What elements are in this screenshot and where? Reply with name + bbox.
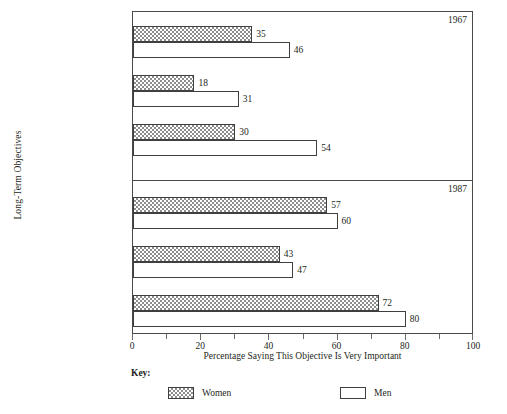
- bar-group: 4347: [133, 246, 472, 278]
- legend-title: Key:: [131, 368, 151, 378]
- panel-1967: 1967 354618313054: [133, 12, 472, 180]
- y-axis-title: Long-Term Objectives: [13, 85, 23, 265]
- legend-entry-men: Men: [340, 386, 391, 400]
- bar-men: [133, 262, 293, 278]
- bar-value-label: 35: [256, 26, 266, 42]
- legend-entry-women: Women: [168, 386, 231, 400]
- bar-group: 1831: [133, 75, 472, 107]
- bar-value-label: 72: [383, 295, 393, 311]
- x-axis-tick-label: 20: [195, 341, 205, 351]
- bar-group: 3546: [133, 26, 472, 58]
- x-axis-minor-tick: [303, 334, 304, 339]
- x-axis-tick: [472, 334, 473, 340]
- bar-chart-figure: Long-Term Objectives 1967 354618313054 1…: [0, 0, 507, 414]
- bar-value-label: 43: [284, 246, 294, 262]
- legend: Key: Women Men: [0, 368, 507, 410]
- bar-value-label: 18: [198, 75, 208, 91]
- x-axis-tick: [268, 334, 269, 340]
- x-axis-tick-label: 60: [332, 341, 342, 351]
- checkered-swatch-icon: [168, 387, 194, 399]
- bar-value-label: 31: [243, 91, 253, 107]
- bar-women: [133, 295, 379, 311]
- bar-men: [133, 91, 239, 107]
- plot-area: 1967 354618313054 1987 576043477280 Obta…: [132, 11, 473, 334]
- bar-men: [133, 213, 338, 229]
- bar-value-label: 30: [239, 124, 249, 140]
- x-axis: 020406080100: [132, 334, 473, 335]
- bar-women: [133, 75, 194, 91]
- x-axis-tick: [405, 334, 406, 340]
- bar-women: [133, 197, 327, 213]
- x-axis-tick-label: 100: [466, 341, 480, 351]
- x-axis-minor-tick: [439, 334, 440, 339]
- panel-year-label-bottom: 1987: [448, 185, 467, 195]
- bar-group: 5760: [133, 197, 472, 229]
- x-axis-tick: [200, 334, 201, 340]
- panel-1987: 1987 576043477280: [133, 180, 472, 335]
- bar-men: [133, 140, 317, 156]
- x-axis-tick: [132, 334, 133, 340]
- bar-group: 7280: [133, 295, 472, 327]
- bar-value-label: 80: [410, 311, 420, 327]
- bar-women: [133, 26, 252, 42]
- bar-group: 3054: [133, 124, 472, 156]
- bar-women: [133, 246, 280, 262]
- x-axis-title: Percentage Saying This Objective Is Very…: [132, 351, 473, 361]
- x-axis-minor-tick: [371, 334, 372, 339]
- legend-label-men: Men: [374, 388, 391, 398]
- bar-value-label: 46: [294, 42, 304, 58]
- bar-value-label: 60: [342, 213, 352, 229]
- x-axis-minor-tick: [166, 334, 167, 339]
- x-axis-tick-label: 40: [264, 341, 274, 351]
- bar-men: [133, 42, 290, 58]
- x-axis-tick-label: 80: [400, 341, 410, 351]
- legend-label-women: Women: [202, 388, 231, 398]
- bar-value-label: 57: [331, 197, 341, 213]
- panel-year-label-top: 1967: [448, 16, 467, 26]
- bar-women: [133, 124, 235, 140]
- bar-men: [133, 311, 406, 327]
- x-axis-tick-label: 0: [130, 341, 135, 351]
- white-swatch-icon: [340, 387, 366, 399]
- bar-value-label: 47: [297, 262, 307, 278]
- x-axis-tick: [337, 334, 338, 340]
- bar-value-label: 54: [321, 140, 331, 156]
- x-axis-minor-tick: [234, 334, 235, 339]
